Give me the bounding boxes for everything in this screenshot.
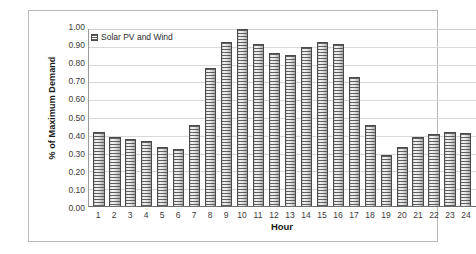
- y-axis-tick-label: 0.60: [47, 95, 85, 104]
- y-axis-tick-label: 0.30: [47, 150, 85, 159]
- bar-slot: [107, 29, 123, 206]
- bar-slot: [282, 29, 298, 206]
- bar: [460, 133, 471, 206]
- bar: [285, 55, 296, 206]
- bar: [412, 137, 423, 206]
- bar: [157, 147, 168, 206]
- bar: [173, 149, 184, 206]
- legend-label: Solar PV and Wind: [101, 32, 173, 42]
- bar-slot: [139, 29, 155, 206]
- bar: [221, 42, 232, 206]
- bar: [109, 137, 120, 206]
- bar-slot: [298, 29, 314, 206]
- y-axis-tick-label: 0.50: [47, 114, 85, 123]
- bar-slot: [266, 29, 282, 206]
- bar: [141, 141, 152, 206]
- bar-slot: [394, 29, 410, 206]
- bar-slot: [458, 29, 474, 206]
- bar: [189, 125, 200, 206]
- bar-slot: [219, 29, 235, 206]
- y-axis-tick-label: 0.40: [47, 132, 85, 141]
- bar: [444, 132, 455, 206]
- bar: [317, 42, 328, 206]
- bar: [237, 29, 248, 206]
- bar: [253, 44, 264, 206]
- bar-slot: [330, 29, 346, 206]
- bar-slot: [442, 29, 458, 206]
- bar-slot: [123, 29, 139, 206]
- bar: [349, 77, 360, 206]
- y-axis-tick-label: 0.90: [47, 41, 85, 50]
- bar: [125, 139, 136, 206]
- bar: [301, 47, 312, 206]
- bar-slot: [203, 29, 219, 206]
- bar: [269, 53, 280, 206]
- bar-slot: [155, 29, 171, 206]
- bar-slot: [251, 29, 267, 206]
- plot-area: [88, 29, 476, 207]
- chart-container: % of Maximum Demand 1.000.900.800.700.60…: [28, 10, 438, 242]
- bar-slot: [426, 29, 442, 206]
- bar-slot: [378, 29, 394, 206]
- bar-slot: [314, 29, 330, 206]
- bar: [428, 134, 439, 206]
- bar-slot: [410, 29, 426, 206]
- bar: [93, 132, 104, 206]
- x-axis-title: Hour: [88, 221, 476, 232]
- bar-slot: [171, 29, 187, 206]
- y-axis-tick-label: 0.70: [47, 77, 85, 86]
- y-axis-tick-label: 0.20: [47, 168, 85, 177]
- bar-series-solar-pv-and-wind: [89, 29, 476, 206]
- bar: [205, 68, 216, 206]
- bar: [333, 44, 344, 206]
- chart-legend: Solar PV and Wind: [91, 32, 173, 42]
- bar: [381, 155, 392, 206]
- y-axis-tick-labels: 1.000.900.800.700.600.500.400.300.200.10…: [47, 23, 85, 213]
- bar-slot: [91, 29, 107, 206]
- y-axis-tick-label: 0.80: [47, 59, 85, 68]
- bar-slot: [346, 29, 362, 206]
- legend-swatch-icon: [91, 34, 98, 41]
- bar-slot: [362, 29, 378, 206]
- y-axis-tick-label: 1.00: [47, 23, 85, 32]
- bar-slot: [235, 29, 251, 206]
- bar: [397, 147, 408, 206]
- y-axis-tick-label: 0.10: [47, 186, 85, 195]
- bar: [365, 125, 376, 206]
- y-axis-tick-label: 0.00: [47, 204, 85, 213]
- bar-slot: [187, 29, 203, 206]
